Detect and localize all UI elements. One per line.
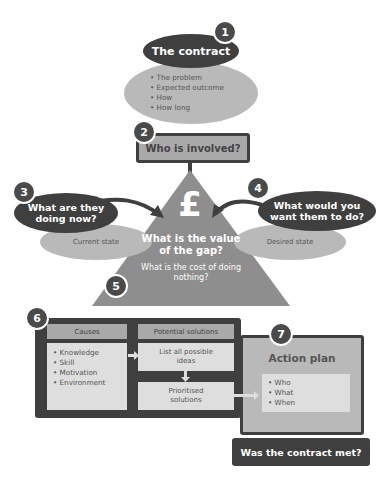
list-item: When — [268, 398, 350, 408]
step-badge-6: 6 — [25, 306, 49, 330]
action-plan-title: Action plan — [243, 352, 361, 364]
step-badge-4: 4 — [246, 176, 270, 200]
action-plan-list-cell: Who What When — [262, 374, 350, 412]
step-badge-3: 3 — [12, 180, 36, 204]
list-item: What — [268, 388, 350, 398]
step-badge-1: 1 — [213, 20, 237, 44]
step-badge-2: 2 — [132, 120, 156, 144]
step-badge-5: 5 — [104, 274, 128, 298]
step-badge-7: 7 — [269, 322, 293, 346]
list-item: Who — [268, 378, 350, 388]
